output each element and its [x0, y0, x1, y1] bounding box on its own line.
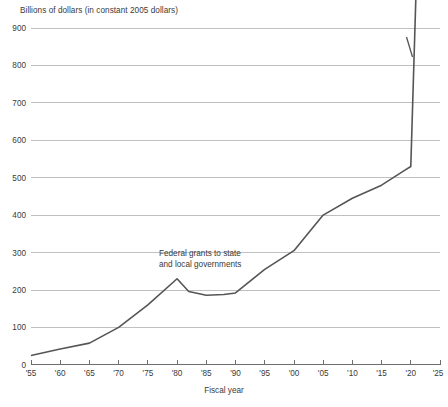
spike-arrowhead-stroke [407, 37, 413, 57]
y-tick-600: 600 [12, 136, 26, 145]
gridlines [31, 28, 440, 327]
y-axis-tick-labels: 900 800 700 600 500 400 300 200 100 0 [12, 24, 26, 370]
y-tick-800: 800 [12, 61, 26, 70]
x-tick-80: '80 [172, 369, 183, 378]
x-tick-05: '05 [318, 369, 329, 378]
chart-container: Billions of dollars (in constant 2005 do… [0, 0, 448, 407]
y-tick-500: 500 [12, 174, 26, 183]
y-tick-300: 300 [12, 249, 26, 258]
x-tick-25: '25 [433, 369, 444, 378]
x-tick-00: '00 [289, 369, 300, 378]
x-tick-65: '65 [84, 369, 95, 378]
annotation-line-2: and local governments [159, 260, 241, 271]
x-tick-70: '70 [113, 369, 124, 378]
x-tick-95: '95 [259, 369, 270, 378]
annotation-line-1: Federal grants to state [159, 249, 241, 260]
chart-plot-area: 900 800 700 600 500 400 300 200 100 0 [0, 0, 448, 407]
x-tick-55: '55 [26, 369, 37, 378]
x-tick-20: '20 [405, 369, 416, 378]
x-axis-tick-labels: '55 '60 '65 '70 '75 '80 '85 '90 '95 '00 … [26, 369, 444, 378]
y-tick-900: 900 [12, 24, 26, 33]
series-annotation: Federal grants to state and local govern… [159, 249, 241, 270]
x-axis-tick-marks [31, 360, 440, 365]
x-tick-15: '15 [376, 369, 387, 378]
y-tick-700: 700 [12, 99, 26, 108]
x-tick-60: '60 [55, 369, 66, 378]
x-axis-title: Fiscal year [0, 386, 448, 395]
x-tick-85: '85 [201, 369, 212, 378]
y-tick-200: 200 [12, 286, 26, 295]
x-tick-10: '10 [347, 369, 358, 378]
x-tick-90: '90 [230, 369, 241, 378]
y-tick-100: 100 [12, 323, 26, 332]
x-tick-75: '75 [143, 369, 154, 378]
y-tick-400: 400 [12, 211, 26, 220]
